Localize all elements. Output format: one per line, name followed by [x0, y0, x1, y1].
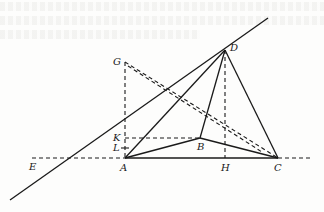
label-A: A — [120, 163, 127, 173]
label-D: D — [230, 43, 238, 53]
segment-AB — [125, 138, 200, 158]
label-C: C — [274, 163, 282, 173]
label-E: E — [29, 162, 36, 172]
label-L: L — [113, 143, 120, 153]
label-B: B — [197, 142, 204, 152]
label-H: H — [221, 163, 230, 173]
label-G: G — [113, 57, 121, 67]
diagram: D G K B L E A H C — [0, 0, 324, 212]
geometry-figure — [0, 0, 324, 212]
segment-BC — [200, 138, 278, 158]
